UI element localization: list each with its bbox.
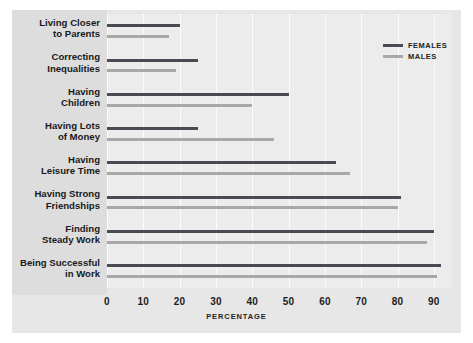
gridline — [216, 14, 217, 288]
gridline — [180, 14, 181, 288]
category-label-line: Correcting — [12, 51, 100, 62]
gridline — [361, 14, 362, 288]
x-tick-label-30: 30 — [210, 296, 222, 307]
category-label-line: Being Successful — [12, 257, 100, 268]
bar-females-3 — [107, 127, 198, 130]
x-tick-label-90: 90 — [428, 296, 440, 307]
bar-males-7 — [107, 275, 437, 278]
category-label-line: in Work — [12, 268, 100, 279]
category-label-7: Being Successfulin Work — [12, 257, 104, 280]
bar-females-2 — [107, 93, 289, 96]
category-label-line: Having Lots — [12, 120, 100, 131]
category-label-1: CorrectingInequalities — [12, 51, 104, 74]
bar-males-3 — [107, 138, 274, 141]
category-label-line: Having — [12, 86, 100, 97]
gridline — [143, 14, 144, 288]
category-label-4: HavingLeisure Time — [12, 154, 104, 177]
category-label-6: FindingSteady Work — [12, 223, 104, 246]
category-label-line: to Parents — [12, 28, 100, 39]
bar-males-1 — [107, 69, 176, 72]
bar-females-0 — [107, 24, 180, 27]
bar-females-1 — [107, 59, 198, 62]
category-label-line: Having — [12, 154, 100, 165]
bar-males-4 — [107, 172, 350, 175]
category-label-0: Living Closerto Parents — [12, 17, 104, 40]
x-tick-label-0: 0 — [104, 296, 110, 307]
category-label-line: Inequalities — [12, 63, 100, 74]
category-label-line: Living Closer — [12, 17, 100, 28]
category-label-line: Children — [12, 97, 100, 108]
bar-females-7 — [107, 264, 441, 267]
x-tick-label-10: 10 — [138, 296, 150, 307]
legend-label-females: FEMALES — [408, 41, 447, 50]
category-label-3: Having Lotsof Money — [12, 120, 104, 143]
bar-females-4 — [107, 161, 336, 164]
legend-label-males: MALES — [408, 52, 437, 61]
category-label-line: Having Strong — [12, 188, 100, 199]
gridline — [325, 14, 326, 288]
gridline — [289, 14, 290, 288]
category-label-line: of Money — [12, 131, 100, 142]
legend-swatch-females-icon — [383, 44, 403, 47]
category-label-5: Having StrongFriendships — [12, 188, 104, 211]
category-label-2: HavingChildren — [12, 86, 104, 109]
bar-males-2 — [107, 104, 252, 107]
gridline — [107, 14, 108, 288]
legend-swatch-males-icon — [383, 55, 403, 58]
x-tick-label-50: 50 — [283, 296, 295, 307]
category-label-line: Leisure Time — [12, 165, 100, 176]
x-axis-title: PERCENTAGE — [0, 312, 473, 321]
category-label-line: Finding — [12, 223, 100, 234]
x-tick-label-20: 20 — [174, 296, 186, 307]
gridline — [252, 14, 253, 288]
bar-males-6 — [107, 241, 427, 244]
category-label-line: Friendships — [12, 200, 100, 211]
bar-males-5 — [107, 206, 398, 209]
category-label-line: Steady Work — [12, 234, 100, 245]
bar-males-0 — [107, 35, 169, 38]
x-tick-label-40: 40 — [246, 296, 258, 307]
chart-root: Living Closerto ParentsCorrectingInequal… — [0, 0, 473, 343]
bar-females-5 — [107, 196, 401, 199]
x-tick-label-60: 60 — [319, 296, 331, 307]
x-tick-label-70: 70 — [355, 296, 367, 307]
legend-item-males[interactable]: MALES — [383, 51, 447, 62]
bar-females-6 — [107, 230, 434, 233]
x-tick-label-80: 80 — [392, 296, 404, 307]
legend-item-females[interactable]: FEMALES — [383, 40, 447, 51]
legend: FEMALES MALES — [383, 40, 447, 62]
